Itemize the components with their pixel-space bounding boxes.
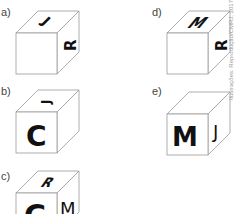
cube-options-figure: a) J R d) M R b) J C e) bbox=[0, 0, 248, 214]
right-letter-c: M bbox=[60, 198, 76, 214]
front-letter-e: M bbox=[172, 122, 198, 152]
right-letter-e: J bbox=[212, 121, 218, 142]
front-letter-c: C bbox=[24, 198, 46, 214]
cube-c: R C M bbox=[0, 0, 100, 214]
image-credit: Ilustrações: Reprodução/CMRJ, 2017 bbox=[228, 0, 234, 100]
